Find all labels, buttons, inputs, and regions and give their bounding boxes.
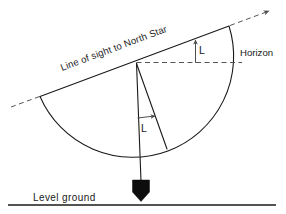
level-ground-label: Level ground [33,192,96,203]
plumb-bob [133,180,150,202]
diagram-canvas: Line of sight to North Star Horizon L L … [0,0,286,214]
horizon-label: Horizon [240,47,273,58]
line-of-sight-dashed-right-arrow [230,11,269,26]
line-of-sight-dashed-left [11,96,41,107]
angle-reference-line [137,64,168,150]
lower-angle-label: L [141,122,147,134]
line-of-sight-label: Line of sight to North Star [59,23,169,73]
upper-angle-label: L [199,44,205,56]
lower-angle-arrow [138,116,156,118]
latitude-diagram: Line of sight to North Star Horizon L L … [0,0,286,214]
